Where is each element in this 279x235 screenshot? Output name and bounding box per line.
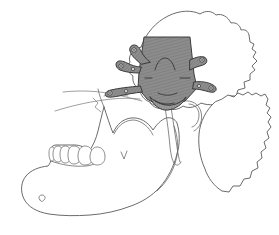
prosthesis-screw-8[interactable] — [197, 84, 200, 87]
mandibular-teeth — [49, 146, 105, 165]
prosthesis-screw-3[interactable] — [131, 67, 134, 70]
anatomy-illustration — [0, 0, 279, 235]
prosthesis-screw-5[interactable] — [124, 89, 128, 93]
anatomical-figure: Lateral view of mandible and temporal bo… — [0, 0, 279, 235]
tooth-6 — [90, 147, 105, 165]
